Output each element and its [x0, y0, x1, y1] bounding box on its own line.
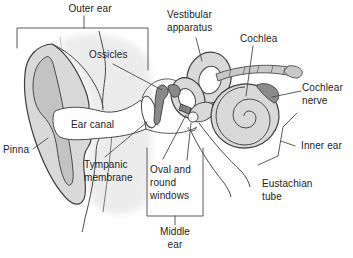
diagram-canvas — [0, 0, 353, 258]
label-ossicles: Ossicles — [89, 49, 128, 62]
label-tympanic-membrane: Tympanic membrane — [84, 159, 133, 184]
label-ear-canal: Ear canal — [71, 119, 114, 132]
malleus-shape — [154, 85, 168, 125]
incus-shape — [168, 85, 180, 98]
label-cochlear-nerve: Cochlear nerve — [302, 82, 343, 107]
label-cochlea: Cochlea — [240, 33, 277, 46]
round-window-shape — [188, 127, 196, 131]
cochlear-nerve-tip — [284, 66, 302, 78]
label-eustachian-tube: Eustachian tube — [262, 178, 312, 203]
ear-anatomy-diagram: Outer ear Vestibular apparatus Cochlea O… — [0, 0, 353, 258]
label-outer-ear: Outer ear — [61, 3, 119, 16]
label-vestibular-apparatus: Vestibular apparatus — [167, 9, 212, 34]
label-oval-round-windows: Oval and round windows — [150, 163, 191, 202]
label-inner-ear: Inner ear — [301, 140, 342, 153]
round-window-pointer — [187, 123, 191, 160]
label-pinna: Pinna — [3, 144, 29, 157]
oval-window-pointer — [163, 115, 186, 159]
label-middle-ear: Middle ear — [152, 226, 198, 251]
